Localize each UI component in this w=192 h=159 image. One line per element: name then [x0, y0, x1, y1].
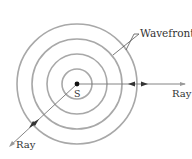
- wavefront-diagram: [0, 0, 192, 159]
- ray-left-label: Ray: [16, 139, 35, 150]
- wavefront-leader-lines: [113, 34, 139, 55]
- ray-right-label: Ray: [172, 88, 191, 99]
- source-point-icon: [75, 82, 80, 87]
- ray-right-arrow-out-icon: [141, 82, 148, 87]
- ray-right-arrow-in-icon: [128, 82, 135, 87]
- ray-left: [9, 84, 77, 147]
- wavefronts-label: Wavefronts: [140, 27, 192, 39]
- source-label: S: [74, 88, 81, 99]
- ray-right-arrowhead-icon: [180, 82, 186, 86]
- ray-right: [77, 82, 186, 87]
